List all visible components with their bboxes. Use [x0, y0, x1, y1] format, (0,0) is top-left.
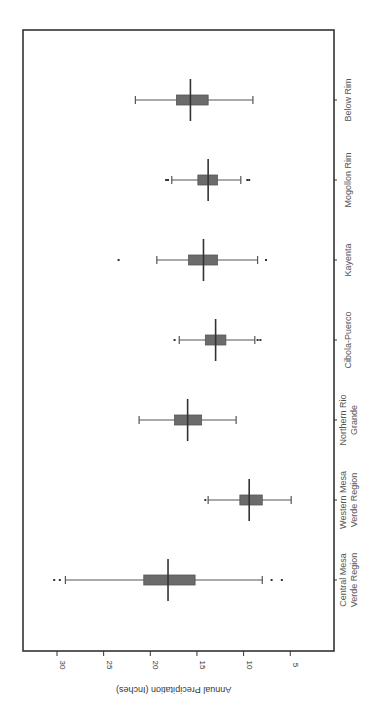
outlier-point	[204, 499, 206, 501]
iqr-box	[144, 575, 195, 585]
category-label-line: Verde Region	[349, 473, 359, 528]
category-label-line: Northern Rio	[338, 394, 348, 445]
category-label-line: Grande	[349, 405, 359, 435]
category-label-line: Cibola-Puerco	[343, 311, 353, 368]
box-plot-mogollon-rim	[165, 159, 250, 201]
outlier-point	[265, 259, 267, 261]
category-axis: Central MesaVerde RegionWestern MesaVerd…	[334, 78, 359, 607]
value-axis: 30252015105	[57, 651, 300, 670]
outlier-point	[281, 579, 283, 581]
category-label-line: Mogollon Rim	[343, 152, 353, 207]
outlier-point	[118, 259, 120, 261]
category-label: Central MesaVerde Region	[338, 553, 359, 608]
category-label: Kayenta	[343, 243, 353, 276]
value-axis-title: Annual Precipitation (Inches)	[116, 685, 231, 695]
value-tick-label: 25	[105, 661, 114, 670]
iqr-box	[240, 495, 262, 505]
category-label: Northern RioGrande	[338, 394, 359, 445]
outlier-point	[257, 339, 259, 341]
value-tick-label: 10	[245, 661, 254, 670]
box-plot-central-mesa-verde-region	[53, 559, 283, 601]
value-tick-label: 5	[291, 663, 300, 668]
category-label-line: Verde Region	[349, 553, 359, 608]
outlier-point	[248, 179, 250, 181]
iqr-box	[176, 95, 208, 105]
box-plot-chart: 30252015105 Central MesaVerde RegionWest…	[0, 0, 369, 713]
box-plot-northern-rio-grande	[139, 399, 236, 441]
outlier-point	[174, 339, 176, 341]
box-plot-cibola-puerco	[174, 319, 262, 361]
outlier-point	[59, 579, 61, 581]
box-plot-western-mesa-verde-region	[204, 479, 291, 521]
category-label-line: Central Mesa	[338, 553, 348, 607]
outlier-point	[259, 339, 261, 341]
box-plots	[53, 79, 291, 601]
category-label: Mogollon Rim	[343, 152, 353, 207]
value-tick-label: 15	[198, 661, 207, 670]
box-plot-below-rim	[135, 79, 253, 121]
category-label: Cibola-Puerco	[343, 311, 353, 368]
outlier-point	[271, 579, 273, 581]
outlier-point	[165, 179, 167, 181]
category-label-line: Kayenta	[343, 243, 353, 276]
plot-frame	[23, 30, 334, 651]
outlier-point	[53, 579, 55, 581]
outlier-point	[167, 179, 169, 181]
value-tick-label: 30	[58, 661, 67, 670]
value-tick-label: 20	[151, 661, 160, 670]
outlier-point	[246, 179, 248, 181]
category-label-line: Western Mesa	[338, 471, 348, 529]
category-label: Below Rim	[343, 78, 353, 121]
box-plot-kayenta	[118, 239, 267, 281]
category-label: Western MesaVerde Region	[338, 471, 359, 529]
category-label-line: Below Rim	[343, 78, 353, 121]
